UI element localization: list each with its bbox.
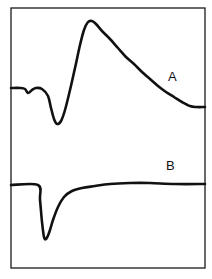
trace-label-b: B bbox=[166, 158, 175, 173]
waveform-figure: A B bbox=[0, 0, 212, 279]
plot-frame bbox=[11, 8, 205, 268]
trace-label-a: A bbox=[168, 69, 177, 84]
trace-b bbox=[11, 183, 205, 240]
